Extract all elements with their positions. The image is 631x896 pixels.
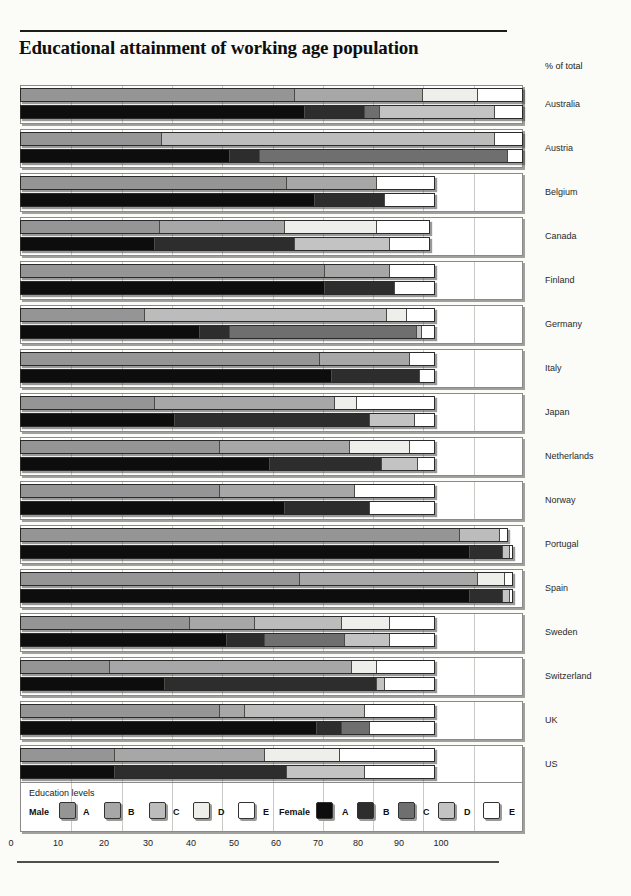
gridline [273,783,274,831]
female-bar [20,545,513,559]
male-segment-D [334,397,356,409]
male-bar [20,308,435,322]
female-segment-C [264,634,344,646]
country-label: Japan [545,407,625,417]
male-segment-E [409,353,434,365]
female-segment-E [384,678,434,690]
female-segment-E [384,194,434,206]
country-panel-finland [20,261,523,300]
female-bar [20,677,435,691]
female-segment-A [21,326,199,338]
female-bar [20,633,435,647]
country-label: Italy [545,363,625,373]
female-segment-C [364,106,379,118]
female-segment-A [21,678,164,690]
country-label: Austria [545,143,625,153]
male-bar [20,352,435,366]
male-segment-B [159,221,284,233]
female-segment-C [341,722,369,734]
male-segment-D [341,617,389,629]
male-segment-B [286,177,376,189]
female-segment-E [389,634,434,646]
legend-swatch-label-female-a: A [342,807,349,817]
male-segment-A [21,573,299,585]
male-segment-A [21,617,189,629]
male-segment-D [351,661,376,673]
male-segment-E [354,485,434,497]
gridline [474,746,475,783]
male-bar [20,528,508,542]
female-segment-A [21,634,226,646]
male-bar [20,704,435,718]
x-tick-label: 100 [433,838,448,848]
x-tick-label: 50 [229,838,239,848]
female-bar [20,105,523,119]
female-segment-B [469,546,502,558]
legend-swatch-female-d [438,802,455,819]
male-segment-D [284,221,377,233]
male-segment-D [477,573,505,585]
female-segment-C [259,150,507,162]
legend-swatch-male-c [149,802,166,819]
female-segment-D [502,590,509,602]
female-segment-B [469,590,502,602]
male-segment-A [21,661,109,673]
legend-swatch-label-female-b: B [383,807,390,817]
country-panel-australia [20,85,523,124]
male-segment-B [114,749,264,761]
female-segment-E [417,458,435,470]
country-panel-spain [20,569,523,608]
male-segment-B [299,573,477,585]
legend-swatch-label-female-e: E [509,807,515,817]
male-segment-C [144,309,387,321]
legend-swatch-male-d [193,802,210,819]
male-bar [20,220,430,234]
male-segment-E [389,617,434,629]
female-segment-A [21,502,284,514]
female-segment-B [114,766,287,778]
female-segment-B [229,150,259,162]
female-segment-A [21,106,304,118]
male-segment-E [376,221,429,233]
country-label: Germany [545,319,625,329]
legend-swatch-female-e [483,802,500,819]
country-label: Portugal [545,539,625,549]
country-panel-japan [20,393,523,432]
male-bar [20,88,523,102]
male-bar [20,616,435,630]
female-segment-D [502,546,509,558]
x-tick-label: 70 [313,838,323,848]
female-segment-B [154,238,294,250]
male-segment-A [21,485,219,497]
male-segment-A [21,133,161,145]
male-segment-A [21,397,154,409]
male-bar [20,748,435,762]
female-bar [20,501,435,515]
x-tick-label: 90 [394,838,404,848]
gridline [474,614,475,651]
country-label: US [545,759,625,769]
female-segment-D [294,238,389,250]
female-bar [20,721,435,735]
country-panel-italy [20,349,523,388]
gridline [122,783,123,831]
male-segment-C [459,529,499,541]
female-segment-B [331,370,419,382]
male-bar [20,176,435,190]
male-segment-E [389,265,434,277]
female-bar [20,237,430,251]
male-segment-D [386,309,406,321]
legend-swatch-female-b [357,802,374,819]
female-segment-B [164,678,377,690]
country-panel-netherlands [20,437,523,476]
male-bar [20,264,435,278]
male-bar [20,484,435,498]
male-segment-E [409,441,434,453]
female-segment-E [389,238,429,250]
female-segment-A [21,238,154,250]
female-segment-B [199,326,229,338]
male-segment-E [376,661,434,673]
country-label: Norway [545,495,625,505]
legend-swatch-male-e [238,802,255,819]
gridline [474,658,475,695]
